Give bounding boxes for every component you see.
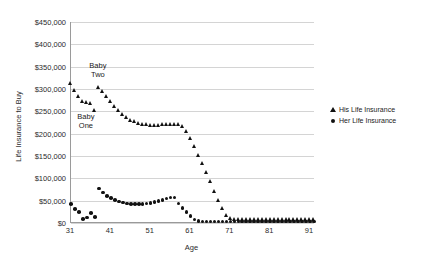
- x-axis-tick-label: 91: [305, 226, 313, 235]
- data-point: [72, 88, 76, 92]
- gridline: [71, 134, 314, 135]
- y-axis-ticks: $0$50,000$100,000$150,000$200,000$250,00…: [0, 22, 66, 223]
- chart-annotation: Baby One: [66, 112, 106, 130]
- gridline: [71, 178, 314, 179]
- legend-item-her: Her Life Insurance: [330, 115, 396, 126]
- gridline: [71, 44, 314, 45]
- data-point: [181, 206, 185, 210]
- x-axis-tick-label: 51: [146, 226, 154, 235]
- gridline: [71, 201, 314, 202]
- data-point: [212, 189, 216, 193]
- data-point: [69, 202, 73, 206]
- data-point: [100, 89, 104, 93]
- data-point: [196, 153, 200, 157]
- data-point: [177, 202, 181, 206]
- chart-annotation: Baby Two: [78, 61, 118, 79]
- data-point: [76, 94, 80, 98]
- data-point: [200, 161, 204, 165]
- data-point: [68, 81, 72, 85]
- x-axis-tick-label: 41: [106, 226, 114, 235]
- y-axis-tick-label: $450,000: [6, 18, 66, 27]
- data-point: [193, 218, 197, 222]
- data-point: [77, 210, 81, 214]
- data-point: [133, 202, 137, 206]
- data-point: [184, 129, 188, 133]
- y-axis-tick-label: $50,000: [6, 196, 66, 205]
- chart-legend: His Life Insurance Her Life Insurance: [330, 104, 396, 126]
- data-point: [192, 144, 196, 148]
- data-point: [88, 101, 92, 105]
- data-point: [189, 214, 193, 218]
- plot-area: [70, 22, 313, 223]
- x-axis-title: Age: [70, 243, 313, 252]
- gridline: [71, 223, 314, 224]
- legend-label-her: Her Life Insurance: [339, 117, 396, 124]
- chart-container: $0$50,000$100,000$150,000$200,000$250,00…: [0, 0, 424, 264]
- legend-label-his: His Life Insurance: [339, 106, 395, 113]
- data-point: [204, 170, 208, 174]
- data-point: [180, 124, 184, 128]
- legend-item-his: His Life Insurance: [330, 104, 396, 115]
- gridline: [71, 89, 314, 90]
- data-point: [312, 220, 316, 224]
- data-point: [185, 210, 189, 214]
- data-point: [161, 198, 165, 202]
- data-point: [169, 196, 173, 200]
- gridline: [71, 22, 314, 23]
- data-point: [85, 216, 89, 220]
- y-axis-title: Life Insurance to Buy: [14, 62, 23, 192]
- x-axis-tick-label: 61: [185, 226, 193, 235]
- x-axis-tick-label: 31: [66, 226, 74, 235]
- y-axis-tick-label: $400,000: [6, 40, 66, 49]
- x-axis-tick-label: 71: [225, 226, 233, 235]
- data-point: [145, 202, 149, 206]
- x-axis-tick-label: 81: [265, 226, 273, 235]
- data-point: [149, 201, 153, 205]
- data-point: [97, 187, 101, 191]
- data-point: [112, 104, 116, 108]
- triangle-marker-icon: [330, 107, 336, 112]
- data-point: [157, 199, 161, 203]
- data-point: [173, 196, 177, 200]
- data-point: [141, 202, 145, 206]
- circle-marker-icon: [331, 119, 335, 123]
- y-axis-tick-label: $0: [6, 219, 66, 228]
- data-point: [129, 202, 133, 206]
- data-point: [208, 179, 212, 183]
- data-point: [188, 136, 192, 140]
- data-point: [101, 191, 105, 195]
- gridline: [71, 111, 314, 112]
- data-point: [153, 200, 157, 204]
- data-point: [108, 99, 112, 103]
- data-point: [137, 202, 141, 206]
- data-point: [93, 215, 97, 219]
- gridline: [71, 156, 314, 157]
- data-point: [216, 198, 220, 202]
- data-point: [89, 211, 93, 215]
- data-point: [220, 206, 224, 210]
- data-point: [104, 94, 108, 98]
